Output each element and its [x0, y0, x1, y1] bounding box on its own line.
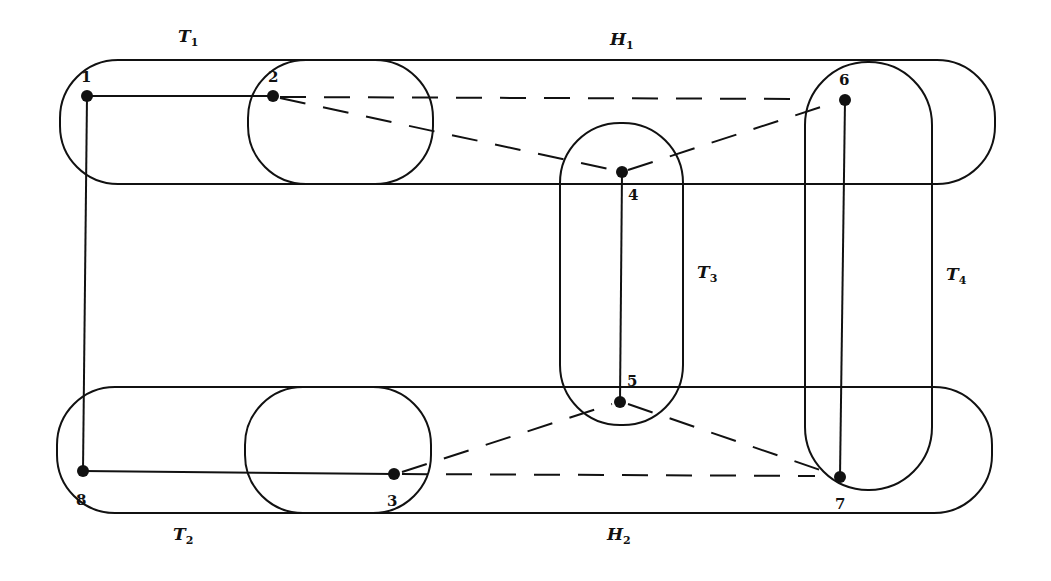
node-label-6: 6 [839, 71, 849, 89]
node-5 [614, 396, 626, 408]
edge-8-3 [83, 471, 394, 474]
set-t2-box [245, 387, 431, 513]
set-label-t3: T3 [697, 262, 717, 285]
hypergraph-diagram: 1 2 3 4 5 6 7 8 T1 H1 T3 T4 T2 H2 [0, 0, 1051, 581]
edge-4-5 [620, 172, 622, 402]
dashed-edge-4-6 [628, 104, 830, 170]
node-label-5: 5 [627, 372, 637, 390]
set-label-t2: T2 [173, 524, 193, 547]
node-label-7: 7 [835, 495, 845, 513]
node-label-2: 2 [268, 68, 278, 86]
edge-1-8 [83, 96, 87, 471]
node-7 [834, 471, 846, 483]
node-label-8: 8 [76, 491, 86, 509]
set-label-h1: H1 [609, 29, 634, 52]
set-label-h2: H2 [606, 524, 631, 547]
dashed-edge-3-5 [402, 404, 612, 472]
node-8 [77, 465, 89, 477]
node-3 [388, 468, 400, 480]
dashed-edge-3-7 [402, 474, 815, 476]
set-label-t4: T4 [946, 264, 967, 287]
node-label-1: 1 [81, 68, 91, 86]
set-t4-box [805, 62, 932, 490]
hyperedge-h2-box [57, 387, 992, 513]
node-label-3: 3 [387, 492, 397, 510]
edge-6-7 [840, 100, 845, 477]
node-label-4: 4 [628, 186, 638, 204]
node-2 [267, 90, 279, 102]
node-1 [81, 90, 93, 102]
dashed-edge-2-6 [280, 97, 800, 99]
node-6 [839, 94, 851, 106]
hyperedge-h1-box [60, 60, 995, 184]
set-label-t1: T1 [178, 26, 198, 49]
dashed-edge-2-4 [280, 98, 618, 171]
node-4 [616, 166, 628, 178]
